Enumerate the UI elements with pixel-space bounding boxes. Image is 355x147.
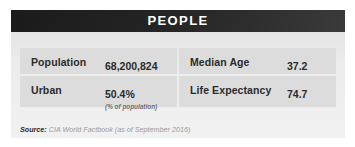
- stat-subnote: (% of population): [105, 103, 157, 110]
- table-row: Population 68,200,824 Median Age 37.2: [20, 48, 336, 74]
- stat-value-wrap: 37.2: [287, 56, 307, 74]
- card-header-title: PEOPLE: [11, 10, 345, 32]
- people-infographic-card: PEOPLE Population 68,200,824 Median Age …: [11, 10, 345, 138]
- stat-cell-urban: Urban 50.4% (% of population): [20, 76, 177, 107]
- stat-cell-population: Population 68,200,824: [20, 48, 177, 74]
- stat-value: 68,200,824: [105, 60, 158, 72]
- table-row: Urban 50.4% (% of population) Life Expec…: [20, 76, 336, 107]
- stat-value-wrap: 50.4% (% of population): [105, 84, 157, 110]
- stat-label: Life Expectancy: [190, 84, 271, 96]
- stat-value: 37.2: [287, 60, 307, 72]
- stat-cell-median-age: Median Age 37.2: [179, 48, 336, 74]
- card-header: PEOPLE: [11, 10, 345, 32]
- stat-value: 50.4%: [105, 88, 135, 100]
- stat-value-wrap: 68,200,824: [105, 56, 158, 74]
- stat-label: Urban: [31, 84, 62, 96]
- stat-value-wrap: 74.7: [287, 84, 307, 102]
- card-body: Population 68,200,824 Median Age 37.2 Ur…: [11, 32, 345, 138]
- stat-label: Median Age: [190, 56, 250, 68]
- source-footer: Source:CIA World Factbook (as of Septemb…: [20, 125, 336, 134]
- stat-label: Population: [31, 56, 86, 68]
- stat-value: 74.7: [287, 88, 307, 100]
- stats-table: Population 68,200,824 Median Age 37.2 Ur…: [20, 48, 336, 109]
- stat-cell-life-expectancy: Life Expectancy 74.7: [179, 76, 336, 107]
- source-text: CIA World Factbook (as of September 2016…: [49, 125, 191, 134]
- source-label: Source:: [20, 125, 47, 134]
